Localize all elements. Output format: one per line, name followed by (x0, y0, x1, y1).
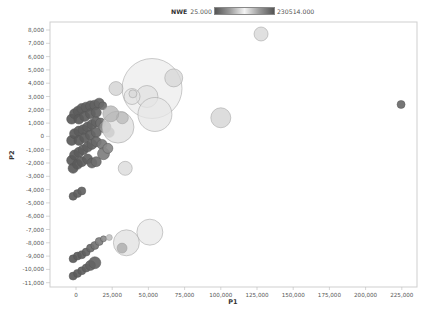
bubble-chart: 8,0007,0006,0005,0004,0003,0002,0001,000… (0, 0, 432, 315)
data-bubble[interactable] (117, 243, 127, 253)
y-tick-label: -10,000 (22, 266, 44, 272)
x-axis: 025,00050,00075,000100,000125,000150,000… (74, 287, 414, 298)
y-tick-label: -5,000 (26, 200, 44, 206)
data-bubble[interactable] (118, 161, 132, 175)
y-tick-label: 6,000 (28, 54, 44, 60)
y-tick-label: 3,000 (28, 94, 44, 100)
y-tick-label: -7,000 (26, 227, 44, 233)
y-tick-label: -8,000 (26, 240, 44, 246)
data-bubble[interactable] (129, 90, 137, 98)
data-bubble[interactable] (113, 230, 139, 256)
y-tick-label: 5,000 (28, 67, 44, 73)
data-bubble[interactable] (109, 82, 123, 96)
data-bubble[interactable] (91, 107, 101, 117)
data-bubble[interactable] (106, 234, 112, 240)
y-axis-label: P2 (8, 150, 16, 159)
y-tick-label: 4,000 (28, 80, 44, 86)
data-bubble[interactable] (165, 69, 183, 87)
y-tick-label: -1,000 (26, 147, 44, 153)
x-axis-label: P1 (228, 298, 238, 306)
x-tick-label: 225,000 (390, 292, 414, 298)
x-tick-label: 25,000 (102, 292, 122, 298)
data-bubble[interactable] (103, 143, 113, 153)
x-tick-label: 200,000 (354, 292, 378, 298)
y-tick-label: -3,000 (26, 173, 44, 179)
y-tick-label: 0 (40, 133, 44, 139)
y-tick-label: -6,000 (26, 213, 44, 219)
data-bubble[interactable] (89, 257, 101, 269)
x-tick-label: 150,000 (282, 292, 306, 298)
x-tick-label: 125,000 (245, 292, 269, 298)
data-bubble[interactable] (78, 187, 86, 195)
data-bubble[interactable] (137, 219, 163, 245)
y-tick-label: -2,000 (26, 160, 44, 166)
y-axis: 8,0007,0006,0005,0004,0003,0002,0001,000… (22, 27, 50, 286)
y-tick-label: 8,000 (28, 27, 44, 33)
data-bubble[interactable] (138, 97, 172, 131)
data-bubble[interactable] (397, 100, 405, 108)
x-tick-label: 75,000 (175, 292, 195, 298)
y-tick-label: 1,000 (28, 120, 44, 126)
bubble-layer (67, 27, 405, 280)
y-tick-label: -4,000 (26, 187, 44, 193)
x-tick-label: 0 (74, 292, 78, 298)
data-bubble[interactable] (254, 27, 268, 41)
data-bubble[interactable] (103, 106, 119, 122)
x-tick-label: 175,000 (318, 292, 342, 298)
x-tick-label: 50,000 (139, 292, 159, 298)
y-tick-label: -9,000 (26, 253, 44, 259)
y-tick-label: -11,000 (22, 280, 44, 286)
data-bubble[interactable] (101, 236, 107, 242)
y-tick-label: 7,000 (28, 40, 44, 46)
y-tick-label: 2,000 (28, 107, 44, 113)
data-bubble[interactable] (211, 108, 231, 128)
